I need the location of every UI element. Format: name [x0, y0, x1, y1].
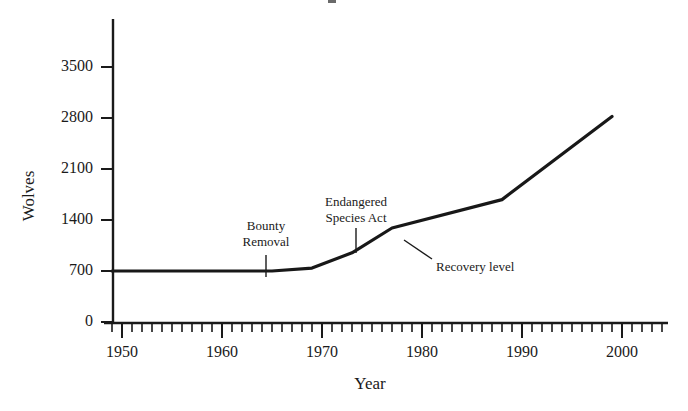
y-axis-ticks	[101, 67, 113, 322]
y-tick-label-3500: 3500	[61, 57, 93, 74]
bounty-removal-label-line1: Bounty	[247, 218, 286, 233]
bounty-removal-label-line2: Removal	[243, 234, 290, 249]
recovery-level-label: Recovery level	[436, 259, 515, 274]
x-tick-label-1990: 1990	[506, 343, 538, 360]
recovery-level-leader-line	[404, 240, 432, 259]
y-axis-tick-labels: 0 700 1400 2100 2800 3500	[61, 57, 93, 329]
endangered-species-act-label-line1: Endangered	[325, 194, 388, 209]
y-tick-label-700: 700	[69, 261, 93, 278]
axes	[104, 19, 668, 324]
annotation-endangered-species-act: Endangered Species Act	[325, 194, 388, 253]
x-tick-label-1950: 1950	[106, 343, 138, 360]
y-tick-label-1400: 1400	[61, 210, 93, 227]
x-axis-tick-labels: 1950 1960 1970 1980 1990 2000	[106, 343, 638, 360]
y-tick-label-2100: 2100	[61, 159, 93, 176]
x-tick-label-1970: 1970	[306, 343, 338, 360]
wolves-population-line-chart: 0 700 1400 2100 2800 3500 1950 1960 1970…	[0, 0, 688, 411]
endangered-species-act-label-line2: Species Act	[325, 210, 386, 225]
x-tick-label-2000: 2000	[606, 343, 638, 360]
chart-page: 0 700 1400 2100 2800 3500 1950 1960 1970…	[0, 0, 688, 411]
annotation-bounty-removal: Bounty Removal	[243, 218, 290, 277]
x-axis-title: Year	[354, 374, 386, 393]
x-axis-minor-ticks	[112, 323, 662, 332]
top-edge-artifact	[328, 0, 336, 3]
y-tick-label-0: 0	[85, 312, 93, 329]
x-tick-label-1960: 1960	[206, 343, 238, 360]
y-axis-title: Wolves	[19, 171, 38, 222]
y-tick-label-2800: 2800	[61, 108, 93, 125]
x-tick-label-1980: 1980	[406, 343, 438, 360]
annotation-recovery-level: Recovery level	[404, 240, 515, 274]
